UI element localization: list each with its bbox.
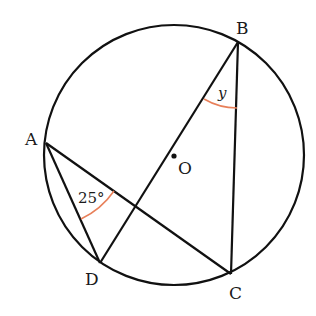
label-D: D [85, 269, 99, 289]
angle-label-y: y [217, 84, 227, 102]
label-B: B [236, 18, 249, 38]
segment-BC [231, 42, 238, 274]
center-point-dot [171, 153, 176, 158]
label-A: A [24, 129, 38, 149]
segment-AC [46, 143, 231, 274]
circle-theorem-diagram: A B C D O 25° y [0, 0, 316, 316]
angle-label-25: 25° [78, 189, 105, 207]
label-O: O [178, 158, 192, 178]
label-C: C [229, 283, 242, 303]
